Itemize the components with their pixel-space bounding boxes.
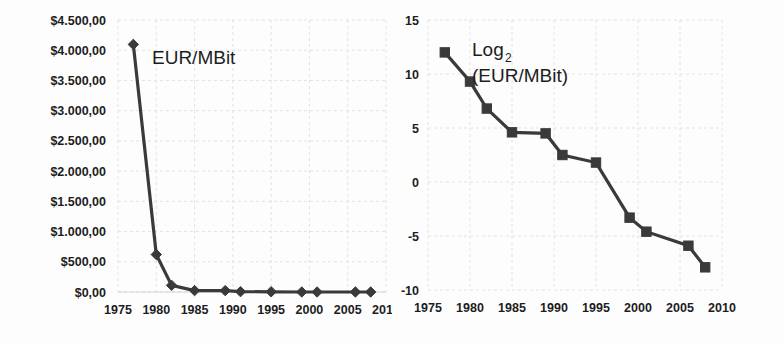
series-annotation-line1: Log xyxy=(472,39,504,60)
line-chart-eur-per-mbit-linear: $4.500,00$4.000,00$3.500,00$3.000,00$2.5… xyxy=(0,0,392,343)
x-axis-tick-label: 1990 xyxy=(540,301,568,315)
y-axis-tick-label: $4.000,00 xyxy=(50,44,106,58)
y-axis-tick-label: $1.500,00 xyxy=(50,195,106,209)
y-axis-tick-label: $500,00 xyxy=(61,255,106,269)
x-axis-tick-label: 2005 xyxy=(666,301,694,315)
series-annotation-subscript: 2 xyxy=(505,51,512,65)
y-axis-tick-label: -10 xyxy=(401,284,419,298)
y-axis-tick-label: $0,00 xyxy=(75,286,106,300)
y-axis-tick-label: $4.500,00 xyxy=(50,14,106,28)
x-axis-tick-labels: 19751980198519901995200020052010 xyxy=(414,301,736,315)
data-point-marker[interactable] xyxy=(220,285,230,295)
data-point-marker[interactable] xyxy=(266,287,276,297)
data-point-marker[interactable] xyxy=(440,48,449,57)
y-axis-tick-label: $3.500,00 xyxy=(50,74,106,88)
data-point-marker[interactable] xyxy=(297,287,307,297)
x-axis-tick-label: 1995 xyxy=(257,303,285,317)
x-axis-tick-label: 1975 xyxy=(414,301,442,315)
x-axis-tick-label: 1980 xyxy=(142,303,170,317)
data-point-marker[interactable] xyxy=(189,285,199,295)
x-axis-tick-label: 2000 xyxy=(296,303,324,317)
data-point-marker[interactable] xyxy=(507,128,516,137)
data-point-marker[interactable] xyxy=(684,241,693,250)
series-annotation-line2: (EUR/MBit) xyxy=(472,65,568,86)
y-axis-tick-label: 5 xyxy=(412,122,419,136)
y-axis-tick-labels: 151050-5-10 xyxy=(401,14,419,298)
data-point-marker[interactable] xyxy=(558,150,567,159)
x-axis-tick-label: 1985 xyxy=(181,303,209,317)
data-point-marker[interactable] xyxy=(541,129,550,138)
y-axis-tick-label: 0 xyxy=(412,176,419,190)
data-point-marker[interactable] xyxy=(591,158,600,167)
data-point-marker[interactable] xyxy=(701,263,710,272)
x-axis-tick-label: 2010 xyxy=(372,303,392,317)
x-axis-tick-label: 2005 xyxy=(334,303,362,317)
data-point-marker[interactable] xyxy=(235,286,245,296)
right-edge-mask xyxy=(778,0,784,343)
data-point-marker[interactable] xyxy=(642,227,651,236)
figure-canvas: $4.500,00$4.000,00$3.500,00$3.000,00$2.5… xyxy=(0,0,784,343)
data-series-line xyxy=(133,44,370,292)
x-axis-tick-label: 2010 xyxy=(708,301,736,315)
data-point-marker[interactable] xyxy=(625,213,634,222)
data-point-marker[interactable] xyxy=(482,104,491,113)
grid-group xyxy=(428,20,722,290)
chart-panel-linear: $4.500,00$4.000,00$3.500,00$3.000,00$2.5… xyxy=(0,0,392,343)
data-point-marker[interactable] xyxy=(151,249,161,259)
y-axis-tick-label: 15 xyxy=(405,14,419,28)
x-axis-tick-label: 2000 xyxy=(624,301,652,315)
x-axis-tick-label: 1975 xyxy=(104,303,132,317)
data-point-marker[interactable] xyxy=(350,287,360,297)
y-axis-tick-label: -5 xyxy=(408,230,419,244)
y-axis-tick-label: $1.000,00 xyxy=(50,225,106,239)
data-point-marker[interactable] xyxy=(166,280,176,290)
x-axis-tick-label: 1985 xyxy=(498,301,526,315)
data-point-marker[interactable] xyxy=(128,39,138,49)
data-point-marker[interactable] xyxy=(312,287,322,297)
y-axis-tick-labels: $4.500,00$4.000,00$3.500,00$3.000,00$2.5… xyxy=(50,14,106,300)
x-axis-tick-labels: 19751980198519901995200020052010 xyxy=(104,303,392,317)
line-chart-eur-per-mbit-log2: 151050-5-1019751980198519901995200020052… xyxy=(392,0,784,343)
chart-panel-log2: 151050-5-1019751980198519901995200020052… xyxy=(392,0,784,343)
y-axis-tick-label: 10 xyxy=(405,68,419,82)
y-axis-tick-label: $3.000,00 xyxy=(50,104,106,118)
x-axis-tick-label: 1990 xyxy=(219,303,247,317)
x-axis-tick-label: 1980 xyxy=(456,301,484,315)
y-axis-tick-label: $2.000,00 xyxy=(50,165,106,179)
series-annotation-label: EUR/MBit xyxy=(152,47,236,68)
x-axis-tick-label: 1995 xyxy=(582,301,610,315)
data-point-marker[interactable] xyxy=(365,287,375,297)
y-axis-tick-label: $2.500,00 xyxy=(50,134,106,148)
data-markers xyxy=(128,39,376,297)
